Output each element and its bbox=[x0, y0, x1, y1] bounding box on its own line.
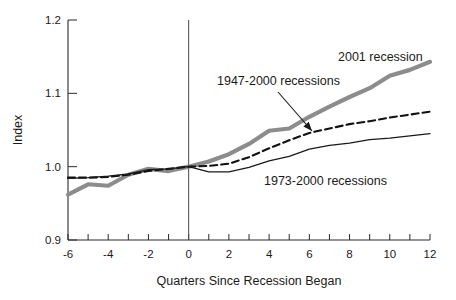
x-tick-label: -6 bbox=[63, 248, 73, 260]
annotation-2001-recession: 2001 recession bbox=[338, 50, 423, 64]
x-tick-label: 0 bbox=[185, 248, 191, 260]
x-tick-label: -4 bbox=[103, 248, 114, 260]
x-axis-title: Quarters Since Recession Began bbox=[157, 274, 342, 288]
x-tick-label: 12 bbox=[424, 248, 437, 260]
y-axis-title: Index bbox=[11, 114, 25, 145]
x-tick-label: 8 bbox=[346, 248, 352, 260]
y-tick-label: 1.0 bbox=[45, 161, 61, 173]
x-tick-label: 4 bbox=[266, 248, 273, 260]
x-axis-ticks: -6-4-2024681012 bbox=[63, 234, 437, 260]
x-tick-label: -2 bbox=[143, 248, 153, 260]
y-tick-label: 1.1 bbox=[45, 87, 61, 99]
chart-canvas: 0.91.01.11.2 -6-4-2024681012 2001 recess… bbox=[0, 0, 456, 300]
y-axis-ticks: 0.91.01.11.2 bbox=[45, 14, 77, 246]
x-tick-label: 6 bbox=[306, 248, 312, 260]
recession-index-chart: 0.91.01.11.2 -6-4-2024681012 2001 recess… bbox=[0, 0, 456, 300]
annotation-1973-2000-recessions: 1973-2000 recessions bbox=[264, 174, 387, 188]
y-tick-label: 0.9 bbox=[45, 234, 61, 246]
x-tick-label: 10 bbox=[383, 248, 396, 260]
annotation-1947-2000-recessions: 1947-2000 recessions bbox=[217, 74, 340, 88]
x-tick-label: 2 bbox=[226, 248, 232, 260]
y-tick-label: 1.2 bbox=[45, 14, 61, 26]
series-line-1973-2000-recessions bbox=[68, 134, 430, 179]
